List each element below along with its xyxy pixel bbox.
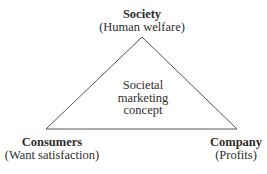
vertex-society: Society (Human welfare) bbox=[92, 8, 192, 34]
center-line-1: Societal bbox=[103, 79, 183, 92]
society-subtitle: (Human welfare) bbox=[92, 21, 192, 34]
vertex-consumers: Consumers (Want satisfaction) bbox=[0, 136, 104, 162]
company-subtitle: (Profits) bbox=[201, 149, 267, 162]
vertex-company: Company (Profits) bbox=[201, 136, 267, 162]
center-line-3: concept bbox=[103, 104, 183, 117]
consumers-subtitle: (Want satisfaction) bbox=[0, 149, 104, 162]
center-label: Societal marketing concept bbox=[103, 79, 183, 117]
